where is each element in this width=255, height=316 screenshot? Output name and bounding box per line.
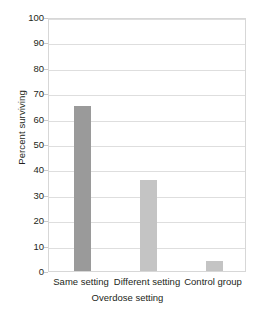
bar-chart-figure: Percent surviving 1009080706050403020100… <box>0 0 255 316</box>
y-axis-tick-label: 80 <box>4 64 44 74</box>
bar <box>206 261 223 271</box>
y-axis-tick-label: 100 <box>4 13 44 23</box>
x-axis-title: Overdose setting <box>0 292 255 303</box>
y-axis-tick-label: 90 <box>4 38 44 48</box>
y-axis-tick-label: 10 <box>4 242 44 252</box>
gridline <box>49 70 245 71</box>
bar <box>140 180 157 271</box>
y-axis-tick-label: 50 <box>4 140 44 150</box>
gridline <box>49 44 245 45</box>
y-axis-tick-label: 30 <box>4 191 44 201</box>
x-axis-tick-label: Control group <box>163 276 255 287</box>
bar <box>74 106 91 271</box>
plot-area <box>48 18 246 272</box>
y-axis-tick-label: 60 <box>4 115 44 125</box>
gridline <box>49 95 245 96</box>
y-axis-title: Percent surviving <box>16 53 27 203</box>
y-axis-tick-label: 40 <box>4 165 44 175</box>
y-axis-tick-label: 20 <box>4 216 44 226</box>
y-axis-tick-mark <box>44 272 48 273</box>
y-axis-tick-label: 70 <box>4 89 44 99</box>
gridline <box>49 19 245 20</box>
